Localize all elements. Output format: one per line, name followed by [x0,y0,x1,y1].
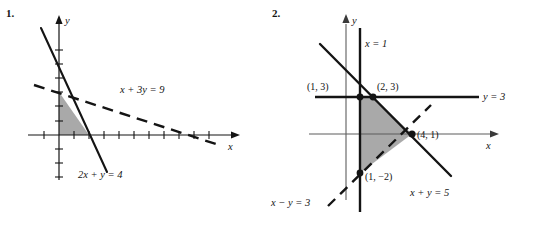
problem-2-vertex-label-4-1: (4, 1) [417,130,439,140]
problem-2-vertex-label-2-3: (2, 3) [377,82,399,92]
line-2x-plus-y-equals-4 [41,28,107,172]
line-x-plus-y-equals-5 [320,44,451,176]
problem-1-figure [0,0,267,227]
problem-1-solid-line-label: 2x + y = 4 [78,170,123,181]
feasible-region-shading [360,97,412,173]
problem-1-y-axis-label: y [65,16,70,27]
problem-2-vertex-label-1-neg2: (1, −2) [365,172,392,182]
vertex-dot-2-3 [370,94,377,101]
problem-1-dashed-line-label: x + 3y = 9 [120,85,165,96]
worksheet-page: 1. [0,0,534,227]
problem-2-solid-diagonal-line-label: x + y = 5 [410,188,449,199]
problem-2-figure [267,0,534,227]
problem-2-vertex-label-1-3: (1, 3) [307,82,329,92]
problem-2-horizontal-line-label: y = 3 [483,92,505,103]
problem-2-x-axis-label: x [486,141,491,152]
problem-1: 1. [0,0,267,227]
problem-2: 2. [267,0,534,227]
problem-2-dashed-line-label: x − y = 3 [271,198,310,209]
vertex-dot-1-neg2 [357,170,364,177]
problem-2-y-axis-label: y [352,16,357,27]
vertex-dot-1-3 [357,94,364,101]
vertex-dot-4-1 [408,130,415,137]
y-axis [342,14,349,200]
problem-1-x-axis-label: x [228,142,233,153]
problem-2-vertical-line-label: x = 1 [365,39,387,50]
